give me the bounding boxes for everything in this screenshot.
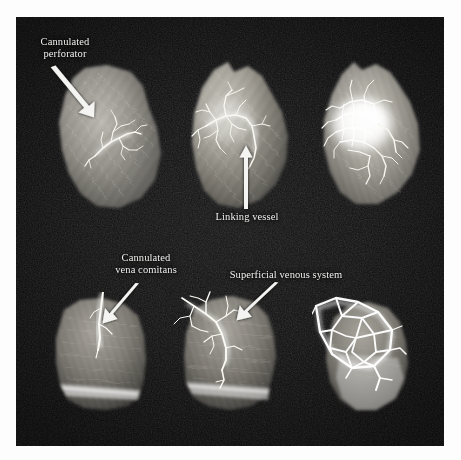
specimen-top-middle xyxy=(176,58,312,214)
specimen-top-right xyxy=(306,58,439,210)
specimen-top-left-image xyxy=(45,62,180,212)
radiograph-plate xyxy=(16,17,444,446)
figure-root: Cannulated perforator Linking vessel Can… xyxy=(0,0,461,460)
specimen-bottom-middle-image xyxy=(172,288,300,414)
tissue-striae xyxy=(59,65,161,208)
specimen-bottom-middle xyxy=(172,288,300,414)
specimen-bottom-right-image xyxy=(312,292,434,414)
specimen-top-right-image xyxy=(306,58,439,210)
specimen-bottom-left xyxy=(40,292,166,414)
specimen-bottom-left-image xyxy=(40,292,166,414)
specimen-bottom-right xyxy=(312,292,434,414)
specimen-top-middle-image xyxy=(176,58,312,214)
specimen-top-left xyxy=(45,62,180,212)
